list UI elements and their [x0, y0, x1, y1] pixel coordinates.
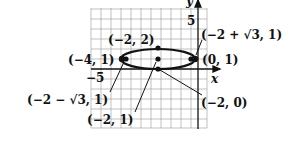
label-covertex-top: (−2, 2) [108, 33, 154, 47]
label-focus-left: (−2 − √3, 1) [27, 93, 108, 107]
y-arrow-icon [195, 0, 201, 7]
label-vertex-left: (−4, 1) [68, 53, 114, 67]
ellipse-diagram: y x 5 −5 (−2, 2) (−4, 1) (0, 1) (−2 + √3… [0, 0, 297, 142]
label-covertex-bottom: (−2, 0) [201, 96, 247, 110]
y-tick-label: 5 [187, 14, 195, 28]
leader-lines [110, 40, 202, 112]
label-focus-right: (−2 + √3, 1) [201, 28, 282, 42]
label-vertex-right: (0, 1) [202, 53, 238, 67]
label-center: (−2, 1) [87, 113, 133, 127]
x-tick-label: −5 [86, 71, 104, 85]
x-axis-label: x [210, 72, 219, 86]
y-axis-label: y [185, 0, 194, 8]
